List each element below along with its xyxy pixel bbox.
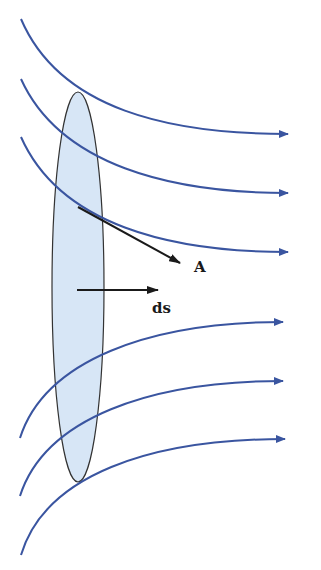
- field-line-1: [21, 19, 288, 134]
- surface: [52, 92, 104, 482]
- vector-a-label: A: [193, 258, 206, 276]
- ds-label: ds: [152, 299, 171, 317]
- surface-ellipse: [52, 92, 104, 482]
- flux-diagram: A ds: [0, 0, 321, 570]
- field-line-6: [21, 439, 285, 555]
